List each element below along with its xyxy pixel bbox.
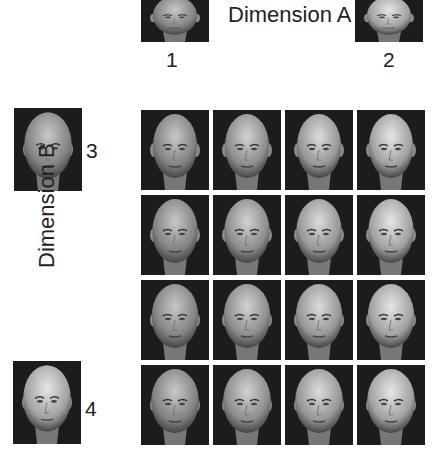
grid-face-r2-c2 [213,195,281,275]
face-illustration [357,280,425,360]
anchor-label-1: 1 [166,49,178,70]
face-illustration [285,365,353,445]
grid-face-r1-c1 [141,110,209,190]
face-illustration [357,110,425,190]
face-illustration [357,195,425,275]
face-illustration [141,195,209,275]
anchor-label-2: 2 [383,49,395,70]
anchor-face-4 [13,361,81,444]
grid-face-r2-c1 [141,195,209,275]
grid-face-r3-c3 [285,280,353,360]
dimension-a-label: Dimension A [228,4,352,26]
anchor-face-2 [355,0,423,42]
grid-face-r3-c1 [141,280,209,360]
anchor-label-4: 4 [85,398,97,419]
dimension-b-label: Dimension B [36,143,58,268]
grid-face-r2-c3 [285,195,353,275]
grid-face-r1-c4 [357,110,425,190]
face-illustration [141,110,209,190]
face-illustration [213,280,281,360]
face-illustration [141,280,209,360]
face-illustration [357,365,425,445]
grid-face-r4-c2 [213,365,281,445]
grid-face-r4-c4 [357,365,425,445]
grid-face-r1-c3 [285,110,353,190]
face-illustration [285,110,353,190]
face-illustration [355,0,423,42]
grid-face-r2-c4 [357,195,425,275]
face-illustration [213,195,281,275]
face-illustration [13,361,81,444]
face-illustration [213,110,281,190]
anchor-face-1 [141,0,209,42]
face-illustration [285,195,353,275]
face-illustration [213,365,281,445]
grid-face-r4-c1 [141,365,209,445]
face-illustration [141,0,209,42]
anchor-label-3: 3 [86,140,98,161]
grid-face-r3-c4 [357,280,425,360]
face-illustration [141,365,209,445]
grid-face-r4-c3 [285,365,353,445]
face-illustration [285,280,353,360]
grid-face-r3-c2 [213,280,281,360]
grid-face-r1-c2 [213,110,281,190]
